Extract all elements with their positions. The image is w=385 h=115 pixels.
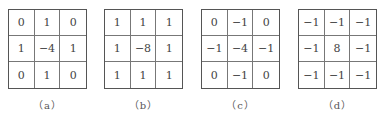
kernel-matrix: 0 1 0 1 −4 1 0 1 0 [8, 9, 87, 89]
kernel-matrix: −1 −1 −1 −1 8 −1 −1 −1 −1 [298, 9, 377, 89]
matrix-cell: −1 [299, 10, 325, 36]
matrix-cell: 0 [253, 62, 279, 88]
matrix-cell-center: −4 [35, 36, 61, 62]
matrix-cell: 1 [105, 36, 131, 62]
matrix-cell: 0 [60, 10, 86, 36]
matrix-cell: 0 [202, 10, 228, 36]
matrix-cell: 1 [156, 36, 182, 62]
kernel-panel-d: −1 −1 −1 −1 8 −1 −1 −1 −1 （d） [298, 9, 377, 112]
matrix-cell: −1 [350, 36, 376, 62]
matrix-cell: 1 [60, 36, 86, 62]
matrix-cell: 1 [131, 10, 157, 36]
matrix-cell: −1 [202, 36, 228, 62]
panel-caption: （b） [104, 97, 183, 112]
matrix-cell: −1 [228, 10, 254, 36]
matrix-cell: 1 [131, 62, 157, 88]
matrix-cell: 0 [202, 62, 228, 88]
matrix-cell: −1 [228, 62, 254, 88]
matrix-cell: 0 [9, 62, 35, 88]
matrix-cell: −1 [299, 36, 325, 62]
matrix-cell: 1 [105, 10, 131, 36]
matrix-cell: −1 [350, 10, 376, 36]
matrix-cell: 0 [253, 10, 279, 36]
matrix-cell: 1 [35, 62, 61, 88]
panel-caption: （c） [201, 97, 280, 112]
matrix-cell: −1 [253, 36, 279, 62]
matrix-cell-center: −4 [228, 36, 254, 62]
matrix-cell: −1 [299, 62, 325, 88]
kernel-panel-c: 0 −1 0 −1 −4 −1 0 −1 0 （c） [201, 9, 280, 112]
matrix-cell-center: −8 [131, 36, 157, 62]
matrix-cell: 0 [9, 10, 35, 36]
matrix-cell: 1 [35, 10, 61, 36]
matrix-cell: 1 [156, 62, 182, 88]
matrix-cell: −1 [350, 62, 376, 88]
matrix-cell: 1 [9, 36, 35, 62]
matrix-cell: 1 [156, 10, 182, 36]
panel-caption: （a） [8, 97, 87, 112]
panel-caption: （d） [298, 97, 377, 112]
kernel-panel-b: 1 1 1 1 −8 1 1 1 1 （b） [104, 9, 183, 112]
kernel-matrix: 0 −1 0 −1 −4 −1 0 −1 0 [201, 9, 280, 89]
matrix-cell: 1 [105, 62, 131, 88]
kernel-panel-a: 0 1 0 1 −4 1 0 1 0 （a） [8, 9, 87, 112]
matrix-cell: 0 [60, 62, 86, 88]
matrix-cell-center: 8 [325, 36, 351, 62]
matrix-cell: −1 [325, 62, 351, 88]
kernel-matrix: 1 1 1 1 −8 1 1 1 1 [104, 9, 183, 89]
matrix-cell: −1 [325, 10, 351, 36]
